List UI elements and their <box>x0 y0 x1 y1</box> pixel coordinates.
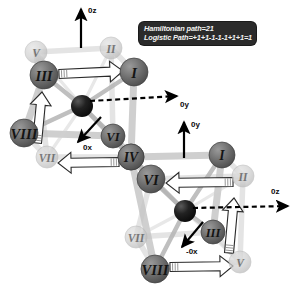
lattice-node-viii: VIII <box>10 119 39 147</box>
axis-label-0z: 0z <box>88 6 96 15</box>
lattice-edge <box>111 48 113 136</box>
lattice-node-viii: VIII <box>141 255 170 283</box>
lattice-node-ii: II <box>232 165 254 187</box>
lattice-node-v: V <box>25 41 47 63</box>
lattice-node-ii: II <box>100 37 122 59</box>
lattice-edge <box>240 176 243 262</box>
lattice-node-vi: VI <box>137 165 165 193</box>
arrow-lower-viii-to-v <box>170 256 233 278</box>
caption-logistic-path: Logistic Path=+1+1-1-1-1+1+1=1 <box>144 33 252 42</box>
path-caption-box: Hamiltonian path=21 Logistic Path=+1+1-1… <box>139 22 256 45</box>
lattice-nodes: VIIIIIIVIIIVIVIIIVIVIVIIIVIIIIIVIIIV <box>10 37 254 283</box>
node-label: IV <box>123 150 140 165</box>
node-label: VIII <box>11 126 39 142</box>
node-label: II <box>238 171 248 183</box>
node-label: III <box>205 226 222 240</box>
node-label: VII <box>128 232 145 244</box>
lattice-edge <box>131 155 222 157</box>
lattice-node-iii: III <box>201 220 225 244</box>
lattice-node-i: I <box>120 58 148 86</box>
node-label: VI <box>106 130 120 144</box>
lattice-node-v: V <box>229 251 251 273</box>
center-hub-node <box>174 200 196 222</box>
lattice-node-iv: IV <box>118 144 144 170</box>
lattice-node-vi: VI <box>101 124 125 148</box>
center-hub-node <box>71 95 93 117</box>
lattice-node-i: I <box>209 142 235 168</box>
node-label: I <box>218 148 225 163</box>
hub-circle <box>174 200 196 222</box>
lattice-node-vii: VII <box>125 226 147 248</box>
node-label: III <box>34 68 53 84</box>
lattice-node-iii: III <box>30 61 58 89</box>
node-label: VI <box>143 172 160 188</box>
node-label: V <box>236 257 245 269</box>
block-arrow-shape <box>170 256 233 278</box>
lattice-node-vii: VII <box>36 146 58 168</box>
axis-label-0x: 0x <box>83 143 92 152</box>
axis-label-0x: -0x <box>186 247 198 256</box>
diagram-canvas: VIIIIIIVIIIVIVIIIVIVIVIIIVIIIIIVIIIV 0z0… <box>0 0 293 298</box>
caption-hamiltonian-path: Hamiltonian path=21 <box>144 24 252 33</box>
axis-label-0z: 0z <box>271 187 279 196</box>
axis-label-0y: 0y <box>191 120 200 129</box>
node-label: V <box>32 47 41 59</box>
node-label: VII <box>39 152 56 164</box>
axis-label-0y: 0y <box>180 100 189 109</box>
node-label: VIII <box>142 262 170 278</box>
hub-circle <box>71 95 93 117</box>
node-label: II <box>106 43 116 55</box>
